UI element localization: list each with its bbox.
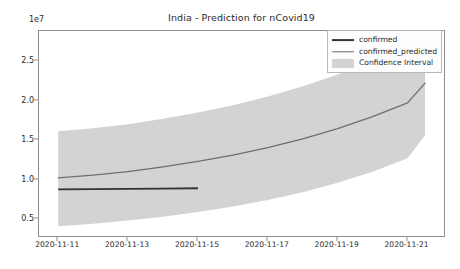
legend-item: confirmed_predicted <box>332 46 437 57</box>
y-tick-label: 2.0 <box>0 95 34 104</box>
legend-line-icon <box>332 35 354 45</box>
y-tick-mark <box>34 217 38 218</box>
y-tick-label: 2.5 <box>0 56 34 65</box>
x-tick-mark <box>266 237 267 241</box>
x-tick-label: 2020-11-13 <box>105 240 149 249</box>
x-tick-label: 2020-11-19 <box>315 240 359 249</box>
legend-item-label: Confidence Interval <box>359 58 433 68</box>
x-tick-mark <box>126 237 127 241</box>
y-tick-label: 1.5 <box>0 135 34 144</box>
y-tick-mark <box>34 138 38 139</box>
x-tick-mark <box>196 237 197 241</box>
legend-item-label: confirmed_predicted <box>359 47 437 57</box>
y-tick-mark <box>34 178 38 179</box>
x-tick-label: 2020-11-17 <box>245 240 289 249</box>
x-tick-mark <box>57 237 58 241</box>
x-tick-label: 2020-11-11 <box>35 240 79 249</box>
x-tick-mark <box>406 237 407 241</box>
y-tick-mark <box>34 99 38 100</box>
x-tick-label: 2020-11-15 <box>175 240 219 249</box>
matplotlib-figure: 1e7 India - Prediction for nCovid19 0.51… <box>0 0 460 269</box>
chart-legend[interactable]: confirmed confirmed_predicted Confidence… <box>327 30 442 73</box>
y-tick-mark <box>34 59 38 60</box>
x-tick-label: 2020-11-21 <box>384 240 428 249</box>
legend-item: Confidence Interval <box>332 58 437 69</box>
legend-band-icon <box>332 59 354 68</box>
y-tick-label: 0.5 <box>0 214 34 223</box>
legend-line-icon <box>332 47 354 57</box>
legend-item-label: confirmed <box>359 35 397 45</box>
x-tick-mark <box>336 237 337 241</box>
legend-item: confirmed <box>332 35 437 46</box>
series-line-confirmed <box>58 188 198 189</box>
y-tick-label: 1.0 <box>0 174 34 183</box>
chart-title: India - Prediction for nCovid19 <box>38 12 445 23</box>
